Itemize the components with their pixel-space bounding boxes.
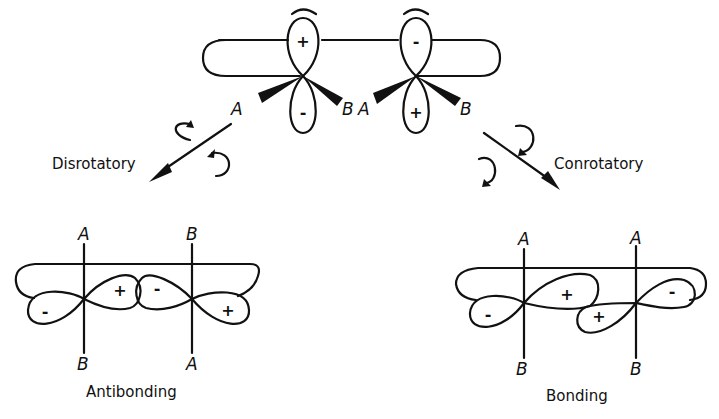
rotation-arrow-cw-lower: [212, 153, 229, 176]
bonding-right-top-atom: A: [629, 228, 642, 248]
electrocyclic-diagram: A B + - A B - + Disrotatory Conrotatory: [0, 0, 719, 419]
antibonding-structure: - + - + A B B A Antibonding: [16, 224, 259, 401]
conrotatory-label: Conrotatory: [554, 155, 643, 173]
right-rotation-hint-arc: [404, 10, 428, 15]
antibonding-sign-far-right: +: [221, 301, 234, 320]
conrotatory-arrow: Conrotatory: [479, 126, 643, 190]
bonding-sign-far-left: -: [485, 305, 492, 324]
disrotatory-arrowhead: [149, 163, 172, 182]
bonding-caption: Bonding: [546, 387, 608, 405]
bonding-structure: - + + - A B A B Bonding: [456, 228, 706, 405]
right-wedge-B: [416, 76, 461, 106]
left-wedge-B: [303, 76, 343, 106]
bonding-left-bottom-atom: B: [516, 359, 528, 379]
disrotatory-arrow-shaft: [162, 124, 231, 171]
left-lower-sign: -: [300, 103, 307, 122]
antibonding-right-lobe-minus: [136, 275, 192, 309]
right-upper-sign: -: [413, 32, 420, 51]
bonding-sign-inner-right: +: [592, 307, 605, 326]
bonding-sign-inner-left: +: [560, 285, 573, 304]
antibonding-caption: Antibonding: [86, 383, 177, 401]
rotation-arrow-cw-upper: [516, 126, 533, 152]
top-molecule: A B + - A B - +: [203, 10, 500, 134]
antibonding-sign-far-left: -: [42, 302, 49, 321]
bonding-left-top-atom: A: [517, 229, 530, 249]
backbone-outline: [203, 40, 500, 76]
antibonding-left-lobe-plus: [84, 275, 140, 309]
left-rotation-hint-arc: [292, 10, 316, 15]
bonding-left-lobe-minus: [470, 296, 524, 327]
left-atom-B: B: [342, 99, 354, 119]
antibonding-left-lobe-minus: [28, 292, 84, 324]
bonding-right-lobe-minus: [636, 279, 695, 308]
rotation-arrowhead-lower-left: [207, 149, 215, 158]
right-atom-A: A: [357, 99, 370, 119]
antibonding-left-top-atom: A: [77, 224, 90, 244]
right-wedge-A: [373, 76, 416, 104]
conrotatory-arrowhead: [541, 171, 560, 190]
disrotatory-arrow: Disrotatory: [52, 120, 231, 182]
antibonding-right-bottom-atom: A: [185, 354, 198, 374]
bonding-right-bottom-atom: B: [630, 359, 642, 379]
left-atom-A: A: [230, 99, 243, 119]
right-atom-B: B: [460, 99, 472, 119]
antibonding-left-bottom-atom: B: [77, 354, 89, 374]
left-wedge-A: [258, 76, 303, 103]
left-upper-sign: +: [296, 32, 309, 51]
conrotatory-arrow-shaft: [484, 133, 550, 180]
bonding-right-lobe-plus: [577, 303, 636, 333]
antibonding-sign-inner-left: +: [113, 281, 126, 300]
bonding-sign-far-right: -: [669, 282, 676, 301]
right-lower-sign: +: [409, 103, 422, 122]
rotation-arrow-cw-lower: [479, 158, 495, 183]
disrotatory-label: Disrotatory: [52, 155, 136, 173]
antibonding-sign-inner-right: -: [154, 279, 161, 298]
antibonding-right-top-atom: B: [186, 224, 198, 244]
